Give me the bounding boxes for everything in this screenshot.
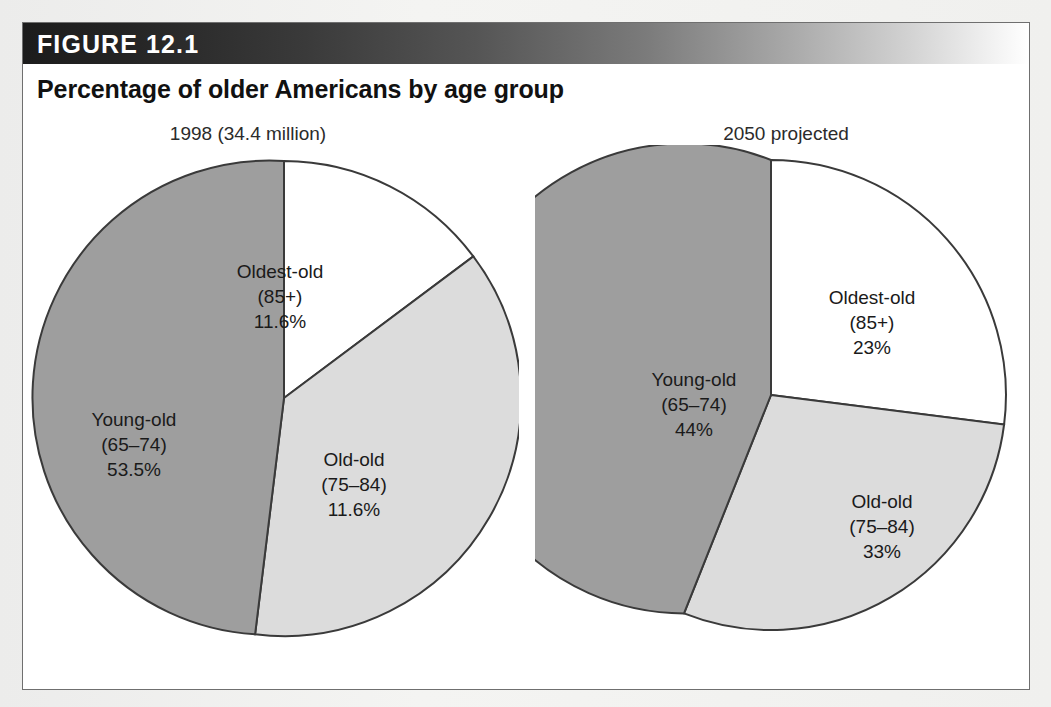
slice-label-name: Oldest-old	[205, 259, 355, 284]
slice-label-1998-young-old: Young-old (65–74) 53.5%	[59, 407, 209, 482]
slice-label-name: Old-old	[279, 447, 429, 472]
slice-label-pct: 53.5%	[59, 457, 209, 482]
slice-label-pct: 11.6%	[205, 309, 355, 334]
charts-area: 1998 (34.4 million) Oldest-old (85+) 11.…	[23, 119, 1029, 690]
slice-label-name: Young-old	[619, 367, 769, 392]
slice-label-name: Old-old	[807, 489, 957, 514]
pie-svg-1998	[29, 145, 519, 645]
slice-label-2050-young-old: Young-old (65–74) 44%	[619, 367, 769, 442]
slice-label-name: Oldest-old	[797, 285, 947, 310]
slice-label-pct: 44%	[619, 417, 769, 442]
slice-label-range: (85+)	[797, 310, 947, 335]
slice-label-pct: 11.6%	[279, 497, 429, 522]
slice-label-pct: 23%	[797, 335, 947, 360]
slice-label-name: Young-old	[59, 407, 209, 432]
slice-label-range: (65–74)	[619, 392, 769, 417]
slice-label-pct: 33%	[807, 539, 957, 564]
slice-label-1998-old-old: Old-old (75–84) 11.6%	[279, 447, 429, 522]
pie-caption-2050: 2050 projected	[541, 123, 1030, 145]
slice-label-range: (75–84)	[807, 514, 957, 539]
figure-panel: FIGURE 12.1 Percentage of older American…	[22, 22, 1030, 690]
slice-label-range: (85+)	[205, 284, 355, 309]
slice-label-range: (65–74)	[59, 432, 209, 457]
pie-chart-2050: 2050 projected Oldest-old (85+) 23%	[535, 119, 1025, 690]
slice-1998-young-old	[32, 161, 284, 635]
pie-caption-1998: 1998 (34.4 million)	[22, 123, 493, 145]
figure-number: FIGURE 12.1	[37, 30, 199, 59]
slice-label-2050-old-old: Old-old (75–84) 33%	[807, 489, 957, 564]
page-background: FIGURE 12.1 Percentage of older American…	[0, 0, 1051, 707]
pie-svg-2050	[535, 145, 1025, 645]
slice-label-range: (75–84)	[279, 472, 429, 497]
figure-header-bar: FIGURE 12.1	[23, 23, 1029, 64]
pie-chart-1998: 1998 (34.4 million) Oldest-old (85+) 11.…	[29, 119, 519, 690]
slice-label-1998-oldest-old: Oldest-old (85+) 11.6%	[205, 259, 355, 334]
figure-title: Percentage of older Americans by age gro…	[37, 75, 564, 104]
slice-label-2050-oldest-old: Oldest-old (85+) 23%	[797, 285, 947, 360]
